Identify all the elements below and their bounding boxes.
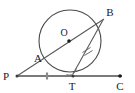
label-C: C <box>116 80 123 92</box>
point-dot-T <box>72 75 75 78</box>
label-B: B <box>106 6 113 18</box>
geometry-figure: P A O B T C <box>0 0 135 93</box>
geometry-canvas: P A O B T C <box>0 0 135 93</box>
tick-on-TB-first <box>83 48 91 53</box>
label-P: P <box>3 70 9 82</box>
label-A: A <box>34 52 42 64</box>
point-dot-O <box>67 39 71 43</box>
point-dot-C <box>118 74 122 78</box>
label-T: T <box>69 80 76 92</box>
point-dot-P <box>16 75 19 78</box>
label-O: O <box>60 27 67 38</box>
